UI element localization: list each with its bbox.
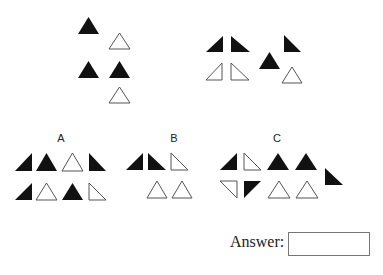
filled-isosceles-triangle-icon	[109, 61, 130, 78]
filled-right-triangle-tl-icon	[244, 181, 261, 198]
filled-right-triangle-bl-icon	[325, 168, 343, 185]
filled-right-triangle-br-icon	[15, 153, 32, 171]
filled-right-triangle-br-icon	[220, 153, 237, 170]
filled-isosceles-triangle-icon	[78, 61, 99, 78]
filled-isosceles-triangle-icon	[62, 183, 83, 200]
filled-isosceles-triangle-icon	[259, 52, 280, 69]
answer-input[interactable]	[288, 232, 370, 256]
outline-right-triangle-tr-icon	[220, 181, 237, 198]
filled-right-triangle-bl-icon	[231, 36, 250, 52]
outline-isosceles-triangle-icon	[109, 87, 130, 103]
outline-isosceles-triangle-icon	[172, 181, 192, 198]
outline-isosceles-triangle-icon	[268, 181, 290, 198]
filled-right-triangle-bl-icon	[89, 153, 106, 171]
filled-right-triangle-bl-icon	[148, 153, 166, 170]
outline-isosceles-triangle-icon	[36, 183, 57, 200]
filled-isosceles-triangle-icon	[78, 17, 99, 34]
option-a-label: A	[57, 132, 64, 144]
outline-isosceles-triangle-icon	[296, 181, 318, 198]
filled-isosceles-triangle-icon	[267, 153, 289, 170]
option-b-label: B	[170, 132, 177, 144]
filled-right-triangle-bl-icon	[284, 35, 301, 52]
outline-right-triangle-bl-icon	[231, 63, 249, 80]
outline-isosceles-triangle-icon	[62, 153, 83, 171]
filled-isosceles-triangle-icon	[36, 153, 57, 171]
outline-right-triangle-bl-icon	[89, 183, 106, 200]
outline-isosceles-triangle-icon	[109, 33, 130, 49]
filled-right-triangle-br-icon	[206, 36, 223, 52]
filled-right-triangle-br-icon	[15, 183, 32, 200]
outline-right-triangle-bl-icon	[244, 153, 261, 170]
answer-label: Answer:	[230, 233, 284, 251]
outline-right-triangle-bl-icon	[171, 153, 188, 170]
filled-right-triangle-br-icon	[126, 153, 143, 170]
outline-right-triangle-br-icon	[206, 63, 222, 80]
option-c-label: C	[273, 132, 281, 144]
outline-isosceles-triangle-icon	[147, 181, 167, 198]
filled-isosceles-triangle-icon	[295, 153, 317, 170]
outline-isosceles-triangle-icon	[282, 67, 302, 83]
puzzle-stage: A B C Answer:	[0, 0, 383, 275]
